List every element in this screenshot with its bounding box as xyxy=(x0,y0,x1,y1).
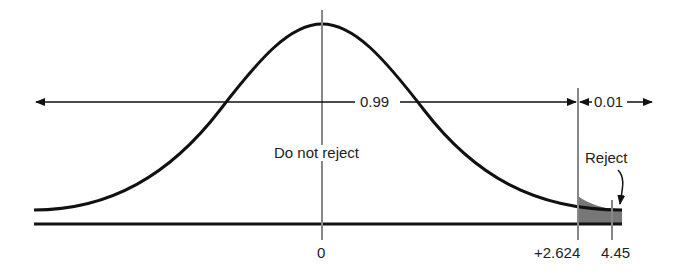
reject-label: Reject xyxy=(585,150,628,166)
reject-pointer-arrow xyxy=(618,170,623,204)
do-not-reject-label: Do not reject xyxy=(274,145,359,161)
tick-zero: 0 xyxy=(317,245,325,261)
reject-area-label: 0.01 xyxy=(594,94,623,110)
tick-test-statistic: 4.45 xyxy=(601,245,630,261)
bell-curve xyxy=(34,24,622,210)
accept-area-label: 0.99 xyxy=(360,94,389,110)
tick-critical-value: +2.624 xyxy=(534,245,580,261)
normal-curve-diagram xyxy=(0,0,676,278)
